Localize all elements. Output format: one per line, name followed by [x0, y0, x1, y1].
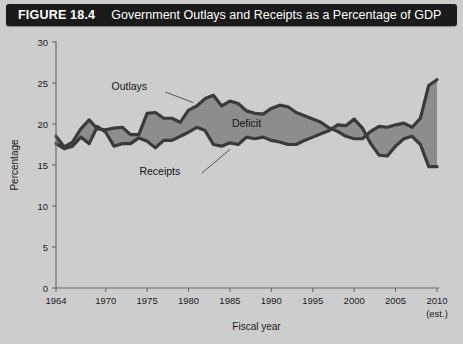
x-tick-label: 1975: [137, 295, 158, 306]
x-tick-label: 1985: [219, 295, 240, 306]
plot-area: 051015202530Percentage196419701975198019…: [0, 28, 463, 344]
x-tick-label: 1964: [45, 295, 66, 306]
y-tick-label: 20: [37, 119, 48, 130]
x-tick-label: 1980: [178, 295, 199, 306]
y-tick-label: 0: [43, 283, 48, 294]
x-axis-title: Fiscal year: [232, 321, 281, 332]
axes: [56, 41, 439, 288]
x-tick-label: 1995: [302, 295, 323, 306]
x-tick-label: 2000: [344, 295, 365, 306]
annotation-receipts: Receipts: [139, 165, 180, 177]
y-tick-label: 25: [37, 78, 48, 89]
figure-container: FIGURE 18.4 Government Outlays and Recei…: [0, 0, 463, 344]
figure-number: FIGURE 18.4: [18, 8, 95, 22]
x-tick-label: 2010: [426, 295, 447, 306]
y-tick-label: 30: [37, 37, 48, 48]
annotation-deficit: Deficit: [232, 117, 261, 129]
annotation-outlays: Outlays: [111, 80, 147, 92]
x-tick-label: 1990: [261, 295, 282, 306]
y-tick-label: 5: [43, 242, 48, 253]
outlays-receipts-chart: 051015202530Percentage196419701975198019…: [0, 28, 463, 344]
x-tick-label: 1970: [95, 295, 116, 306]
x-tick-label: 2005: [385, 295, 406, 306]
figure-header-bar: FIGURE 18.4 Government Outlays and Recei…: [6, 4, 457, 26]
y-tick-label: 15: [37, 160, 48, 171]
figure-title: Government Outlays and Receipts as a Per…: [111, 8, 441, 22]
x-tick-note: (est.): [426, 308, 448, 319]
y-tick-label: 10: [37, 201, 48, 212]
y-axis-title: Percentage: [9, 139, 20, 191]
